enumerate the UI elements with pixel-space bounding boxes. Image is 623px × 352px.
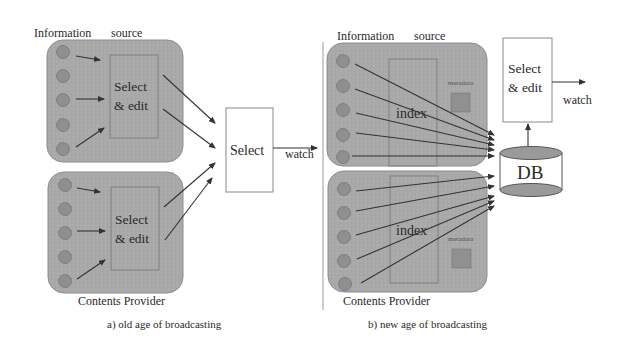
select-edit-label-a-top-2: & edit bbox=[114, 99, 148, 113]
select-edit-label-b-2: & edit bbox=[508, 81, 542, 95]
panel-a-info-label: Information bbox=[34, 27, 91, 39]
metadata-label-b-top: metadata bbox=[448, 80, 473, 87]
select-edit-label-b-1: Select bbox=[508, 62, 541, 76]
metadata-square-top bbox=[451, 93, 470, 112]
panel-a-old-age bbox=[47, 40, 317, 293]
watch-label-a: watch bbox=[285, 148, 314, 160]
panel-a-source-label: source bbox=[111, 27, 142, 39]
panel-b-info-label: Information bbox=[337, 30, 394, 42]
panel-a-caption: a) old age of broadcasting bbox=[107, 319, 221, 330]
watch-label-b: watch bbox=[563, 94, 592, 106]
index-label-b-bottom: index bbox=[396, 224, 427, 238]
panel-b-contents-provider-label: Contents Provider bbox=[343, 295, 430, 307]
db-label: DB bbox=[517, 163, 543, 182]
panel-b-source-label: source bbox=[414, 30, 445, 42]
select-edit-label-a-top-1: Select bbox=[114, 80, 147, 94]
index-label-b-top: index bbox=[396, 107, 427, 121]
panel-a-contents-provider-label: Contents Provider bbox=[78, 295, 165, 307]
metadata-square-bottom bbox=[452, 249, 471, 268]
provider-b-top bbox=[327, 43, 494, 166]
select-edit-label-a-bottom-2: & edit bbox=[115, 232, 149, 246]
panel-b-caption: b) new age of broadcasting bbox=[368, 319, 487, 330]
select-box-a-label: Select bbox=[230, 144, 264, 158]
metadata-label-b-bottom: metadata bbox=[448, 236, 473, 243]
panel-b-new-age bbox=[327, 38, 585, 292]
select-edit-label-a-bottom-1: Select bbox=[115, 213, 148, 227]
